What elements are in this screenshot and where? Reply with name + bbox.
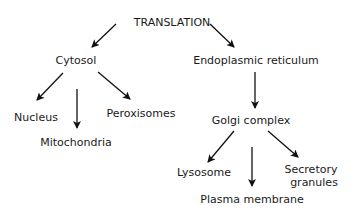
arrow-translation-cytosol	[92, 24, 116, 47]
node-endoplasmic-reticulum: Endoplasmic reticulum	[193, 54, 319, 67]
arrow-translation-er	[210, 24, 234, 47]
node-secretory-line2: granules	[290, 176, 338, 189]
node-lysosome: Lysosome	[177, 166, 231, 179]
node-mitochondria: Mitochondria	[40, 136, 112, 149]
node-translation: TRANSLATION	[134, 16, 211, 29]
arrow-cytosol-nucleus	[37, 73, 63, 100]
arrow-golgi-lysosome	[208, 131, 234, 162]
arrow-golgi-secretory	[268, 131, 298, 157]
arrow-cytosol-peroxisomes	[98, 72, 130, 99]
node-cytosol: Cytosol	[56, 54, 97, 67]
node-secretory-line1: Secretory	[285, 163, 338, 176]
node-plasma-membrane: Plasma membrane	[200, 193, 303, 206]
node-nucleus: Nucleus	[14, 111, 58, 124]
protein-sorting-diagram: TRANSLATION Cytosol Endoplasmic reticulu…	[0, 0, 357, 215]
node-golgi-complex: Golgi complex	[212, 114, 290, 127]
node-peroxisomes: Peroxisomes	[107, 107, 176, 120]
